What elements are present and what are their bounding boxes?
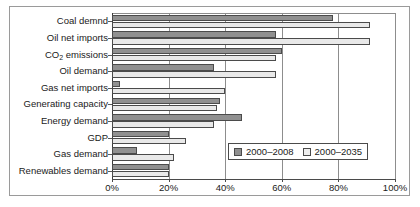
legend-swatch-icon [303,148,311,156]
x-axis-tick-label: 40% [216,182,235,193]
y-axis-label: CO2 emissions [8,50,108,61]
x-axis-tick-label: 20% [159,182,178,193]
bar [112,71,276,77]
bar [112,105,217,111]
y-axis-tick [108,104,112,105]
bar [112,164,169,170]
y-axis-label: Oil net imports [8,33,108,43]
bar [112,15,333,21]
bar [112,38,370,44]
gridline-100 [395,13,396,179]
y-axis-label: Gas net imports [8,83,108,93]
bar [112,121,214,127]
x-axis-tick [338,179,339,182]
bar-group [112,162,395,179]
y-axis-tick [108,21,112,22]
x-axis-tick [282,179,283,182]
bar [112,171,169,177]
y-axis-tick [108,71,112,72]
y-axis-label: GDP [8,133,108,143]
y-axis-label: Generating capacity [8,99,108,109]
legend-label: 2000–2035 [315,146,363,157]
y-axis-label: Gas demand [8,149,108,159]
y-axis-label: Renewables demand [8,166,108,176]
bar [112,55,276,61]
bar [112,154,174,160]
y-axis-tick [108,171,112,172]
x-axis-tick-label: 80% [329,182,348,193]
bar-group [112,13,395,30]
legend-label: 2000–2008 [246,146,294,157]
bar-group [112,96,395,113]
legend-entry: 2000–2008 [234,146,294,157]
x-axis-tick-labels: 0%20%40%60%80%100% [112,182,395,196]
y-axis-category-labels: Coal demndOil net importsCO2 emissionsOi… [4,13,108,179]
legend-entry: 2000–2035 [303,146,363,157]
bar-group [112,79,395,96]
bar [112,81,120,87]
legend-swatch-icon [234,148,242,156]
x-axis-tick [112,179,113,182]
bar [112,88,225,94]
y-axis-label: Oil demand [8,66,108,76]
x-axis-line [112,179,396,180]
y-axis-tick [108,88,112,89]
y-axis-tick [108,138,112,139]
y-axis-tick [108,55,112,56]
x-axis-tick [169,179,170,182]
bar-group [112,46,395,63]
bar-group [112,30,395,47]
bar [112,48,282,54]
x-axis-tick [395,179,396,182]
bar [112,114,242,120]
bar [112,22,370,28]
y-axis-tick [108,154,112,155]
chart-legend: 2000–20082000–2035 [228,143,368,160]
bar [112,31,276,37]
bar [112,131,169,137]
bar [112,64,214,70]
y-axis-tick [108,121,112,122]
bar [112,138,186,144]
chart-figure: Coal demndOil net importsCO2 emissionsOi… [0,0,420,207]
y-axis-tick [108,38,112,39]
x-axis-tick-label: 60% [272,182,291,193]
bar-group [112,113,395,130]
bar [112,147,137,153]
x-axis-tick [225,179,226,182]
y-axis-label: Coal demnd [8,16,108,26]
bar [112,98,220,104]
x-axis-tick-label: 100% [383,182,407,193]
x-axis-tick-label: 0% [105,182,119,193]
bar-group [112,63,395,80]
y-axis-label: Energy demand [8,116,108,126]
